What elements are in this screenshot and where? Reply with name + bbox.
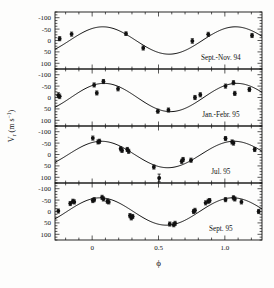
y-tick-label: 0 [48,208,52,216]
data-marker [58,37,62,41]
data-marker [92,198,96,202]
data-point [193,95,197,99]
sine-fit-curve [55,198,262,225]
data-point [233,91,237,95]
data-marker [98,139,102,143]
y-tick-label: -50 [42,83,52,91]
data-marker [173,221,177,225]
data-point [190,39,194,44]
data-marker [120,148,124,152]
data-point [224,136,228,140]
x-tick-label: 1.0 [220,244,229,252]
data-point [257,209,261,213]
y-tick-label: 100 [41,231,52,239]
data-marker [224,84,228,88]
data-point [95,91,99,95]
y-tick-label: -100 [38,128,51,136]
data-marker [58,94,62,98]
y-tick-label: -50 [42,197,52,205]
data-marker [193,96,197,100]
y-tick-label: 0 [48,151,52,159]
data-marker [232,141,236,145]
data-marker [116,87,120,91]
panel-3: Jul. 95100500-50-100 [38,126,262,183]
x-tick-label: 0 [90,244,94,252]
data-points [91,136,257,182]
data-marker [127,149,131,153]
data-marker [208,199,212,203]
data-marker [239,200,243,204]
data-marker [70,32,74,36]
data-marker [131,215,135,219]
data-marker [92,83,96,87]
y-tick-label: -100 [38,14,51,22]
y-tick-label: 0 [48,94,52,102]
data-marker [233,91,237,95]
data-marker [224,198,228,202]
y-tick-label: -50 [42,140,52,148]
data-marker [72,200,76,204]
data-point [91,136,95,140]
data-marker [101,197,105,201]
panel-label: Sept.-Nov. 94 [201,54,241,62]
data-marker [193,208,197,212]
data-point [247,87,251,91]
y-axis-label: Vr (m s−1) [6,110,17,143]
y-tick-label: 100 [41,60,52,68]
data-marker [233,197,237,201]
y-tick-label: -50 [42,26,52,34]
x-tick-label: 0.5 [154,244,163,252]
y-tick-label: 50 [44,105,52,113]
y-tick-label: 50 [44,219,52,227]
data-marker [107,200,111,204]
data-point [250,33,254,37]
data-marker [250,34,254,38]
data-point [141,46,145,50]
panel-label: Sept. 95 [209,225,233,233]
data-points [58,32,254,50]
y-tick-label: 50 [44,162,52,170]
sine-fit-curve [55,83,262,111]
data-marker [181,158,185,162]
data-marker [157,176,161,180]
data-marker [156,109,160,113]
x-axis-label: ϕ [156,258,161,268]
data-marker [91,136,95,140]
panel-2: Jan.-Febr. 95100500-50-100 [38,69,262,126]
data-marker [56,209,60,213]
data-point [56,209,60,213]
data-marker [168,222,172,226]
data-marker [257,210,261,214]
data-point [124,32,128,36]
panel-4: Sept. 95100500-50-100 [38,183,262,240]
y-tick-label: -100 [38,71,51,79]
data-point [239,200,243,204]
y-tick-label: 100 [41,174,52,182]
panel-1: Sept.-Nov. 94100500-50-100 [38,12,262,69]
figure-container: Sept.-Nov. 94100500-50-100Jan.-Febr. 951… [0,0,274,288]
data-marker [190,39,194,43]
data-marker [224,137,228,141]
panel-label: Jul. 95 [211,168,231,176]
data-points [56,79,251,113]
data-marker [124,32,128,36]
panel-label: Jan.-Febr. 95 [202,111,240,119]
svg-text:Vr (m s−1): Vr (m s−1) [6,110,17,143]
data-marker [253,148,257,152]
y-tick-label: 50 [44,48,52,56]
data-marker [232,81,236,85]
data-marker [141,46,145,50]
data-marker [95,91,99,95]
data-marker [167,108,171,112]
y-tick-label: 100 [41,117,52,125]
data-marker [247,88,251,92]
data-marker [206,32,210,36]
y-tick-label: 0 [48,37,52,45]
y-tick-label: -100 [38,185,51,193]
data-marker [189,158,193,162]
radial-velocity-figure: Sept.-Nov. 94100500-50-100Jan.-Febr. 951… [0,0,274,288]
data-marker [198,93,202,97]
data-point [70,32,74,36]
data-point [92,83,96,87]
data-point [157,174,161,182]
